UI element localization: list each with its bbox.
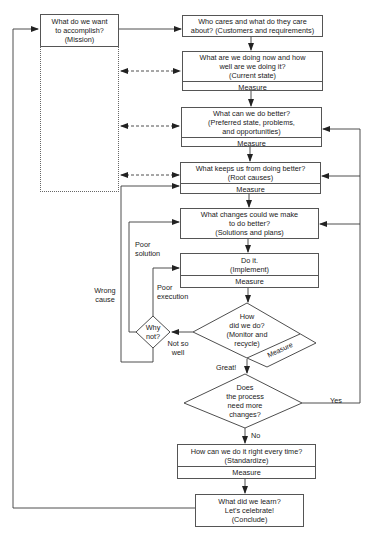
implement-text: Do it. (Implement) <box>181 254 318 275</box>
current-state-box: What are we doing now and how well are w… <box>182 51 323 91</box>
more-changes-decision-text: Does the process need more changes? <box>210 383 280 419</box>
solutions-box: What changes could we make to do better?… <box>180 208 319 239</box>
standardize-box: How can we do it right every time? (Stan… <box>177 444 316 479</box>
standardize-text: How can we do it right every time? (Stan… <box>178 445 315 466</box>
poor-solution-label: Poor solution <box>135 240 160 258</box>
preferred-state-text: What can we do better? (Preferred state,… <box>182 108 321 137</box>
customers-text: Who cares and what do they care about? (… <box>183 16 322 36</box>
conclude-text: What did we learn? Let's celebrate! (Con… <box>196 495 303 526</box>
poor-execution-label: Poor execution <box>157 283 188 301</box>
solutions-text: What changes could we make to do better?… <box>181 209 318 238</box>
current-state-measure: Measure <box>183 81 322 93</box>
root-causes-measure: Measure <box>181 183 320 195</box>
preferred-state-box: What can we do better? (Preferred state,… <box>181 107 322 147</box>
root-causes-text: What keeps us from doing better? (Root c… <box>181 163 320 183</box>
root-causes-box: What keeps us from doing better? (Root c… <box>180 162 321 194</box>
monitor-decision-text: How did we do? (Monitor and recycle) <box>212 312 282 348</box>
yes-label: Yes <box>330 396 342 405</box>
great-label: Great! <box>216 363 236 372</box>
wrong-cause-label: Wrong cause <box>92 286 118 304</box>
current-state-text: What are we doing now and how well are w… <box>183 52 322 81</box>
implement-measure: Measure <box>181 275 318 287</box>
mission-box: What do we want to accomplish? (Mission) <box>40 14 119 47</box>
implement-box: Do it. (Implement) Measure <box>180 253 319 288</box>
mission-text: What do we want to accomplish? (Mission) <box>41 15 118 46</box>
customers-box: Who cares and what do they care about? (… <box>182 15 323 37</box>
standardize-measure: Measure <box>178 466 315 478</box>
mission-dotted-extension <box>40 46 119 192</box>
preferred-state-measure: Measure <box>182 137 321 149</box>
not-so-well-label: Not so well <box>164 339 192 357</box>
conclude-box: What did we learn? Let's celebrate! (Con… <box>195 494 304 527</box>
no-label: No <box>251 431 260 440</box>
